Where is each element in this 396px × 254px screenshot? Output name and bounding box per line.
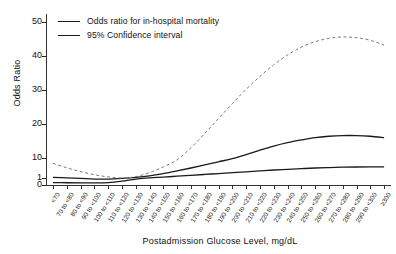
y-tick-mark	[42, 158, 46, 159]
y-tick-mark	[42, 185, 46, 186]
y-tick-mark	[42, 22, 46, 23]
legend-label-confidence-interval: 95% Confidence interval	[87, 30, 182, 40]
legend-item-confidence-interval: 95% Confidence interval	[58, 28, 288, 42]
legend-item-odds-ratio: Odds ratio for in-hospital mortality	[58, 14, 288, 28]
y-tick-mark	[42, 56, 46, 57]
curve-series-0	[53, 135, 384, 179]
curve-series-2	[53, 167, 384, 183]
legend-label-odds-ratio: Odds ratio for in-hospital mortality	[87, 16, 219, 26]
legend-line-swatch-solid	[58, 21, 80, 22]
y-tick-mark	[42, 178, 46, 179]
curve-series-1	[53, 37, 384, 178]
y-tick-mark	[42, 90, 46, 91]
x-axis-title: Postadmission Glucose Level, mg/dL	[46, 236, 394, 246]
y-tick-mark	[42, 124, 46, 125]
odds-ratio-chart: Odds Ratio 011020304050 Odds ratio for i…	[0, 0, 396, 254]
legend-line-swatch-ci	[58, 35, 80, 36]
chart-legend: Odds ratio for in-hospital mortality 95%…	[58, 14, 288, 42]
